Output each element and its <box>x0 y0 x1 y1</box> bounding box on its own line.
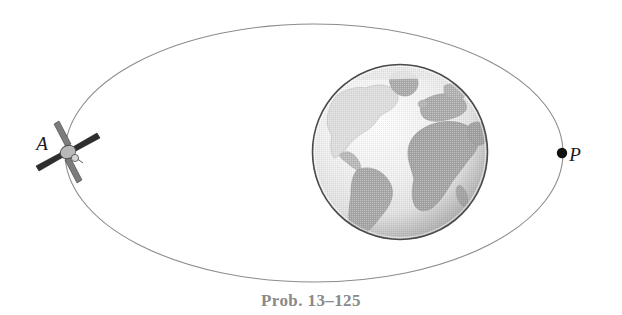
solar-panel-upper-left <box>54 121 71 147</box>
figure-root: A P Prob. 13–125 <box>0 0 622 315</box>
perigee-point-marker <box>557 148 567 158</box>
earth-globe <box>310 60 494 246</box>
apogee-label: A <box>34 133 48 154</box>
figure-caption: Prob. 13–125 <box>261 291 361 310</box>
limb-shading <box>313 65 488 240</box>
orbit-diagram-svg: A P Prob. 13–125 <box>0 0 622 315</box>
perigee-label: P <box>568 144 581 165</box>
satellite-dish <box>71 154 78 161</box>
